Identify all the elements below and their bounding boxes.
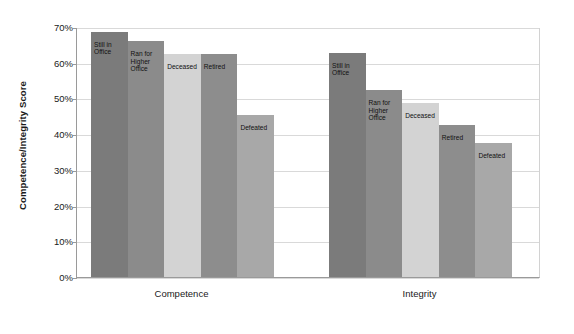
bar-category-label-line: Defeated xyxy=(478,152,505,160)
bar-category-label: Ran forHigherOffice xyxy=(369,99,391,122)
bar-category-label-line: Retired xyxy=(442,134,463,142)
y-axis-tick-label: 60% xyxy=(29,58,73,69)
bar-category-label: Deceased xyxy=(167,63,197,71)
y-axis-tick-label: 40% xyxy=(29,129,73,140)
y-axis-tick-label: 10% xyxy=(29,236,73,247)
bar-category-label-line: Ran for xyxy=(131,50,153,58)
y-axis-title: Competence/Integrity Score xyxy=(17,46,28,246)
y-axis-tick-label: 70% xyxy=(29,22,73,33)
bar-category-label-line: Office xyxy=(131,65,153,73)
bar-category-label-line: Defeated xyxy=(240,124,267,132)
bar-category-label-line: Office xyxy=(94,48,112,56)
bar-competence-still-in-office[interactable] xyxy=(91,32,128,277)
y-axis-tick-mark xyxy=(73,242,77,243)
bar-category-label-line: Ran for xyxy=(369,99,391,107)
bar-integrity-retired[interactable] xyxy=(439,125,476,277)
y-axis-tick-mark xyxy=(73,207,77,208)
bar-category-label-line: Office xyxy=(332,69,350,77)
bar-category-label-line: Still in xyxy=(94,41,112,49)
bar-category-label-line: Office xyxy=(369,114,391,122)
y-axis-tick-label: 50% xyxy=(29,93,73,104)
bar-category-label-line: Deceased xyxy=(167,63,197,71)
bar-category-label: Retired xyxy=(204,63,225,71)
bar-category-label: Defeated xyxy=(240,124,267,132)
bar-competence-defeated[interactable] xyxy=(237,115,274,277)
y-axis-tick-mark xyxy=(73,135,77,136)
y-axis-tick-label: 0% xyxy=(29,272,73,283)
gridline xyxy=(77,278,539,279)
bar-category-label: Still inOffice xyxy=(332,62,350,77)
bar-category-label: Retired xyxy=(442,134,463,142)
y-axis-tick-label: 30% xyxy=(29,165,73,176)
bar-category-label-line: Deceased xyxy=(405,112,435,120)
bar-integrity-deceased[interactable] xyxy=(402,103,439,277)
y-axis-tick-mark xyxy=(73,99,77,100)
bar-competence-ran-for-higher-office[interactable] xyxy=(128,41,165,277)
bar-category-label: Defeated xyxy=(478,152,505,160)
bar-category-label-line: Still in xyxy=(332,62,350,70)
x-axis-group-label-competence: Competence xyxy=(122,288,242,299)
bar-category-label-line: Higher xyxy=(369,107,391,115)
gridline xyxy=(77,28,539,29)
plot-area: 0%10%20%30%40%50%60%70%Still inOfficeRan… xyxy=(76,28,540,278)
bar-integrity-defeated[interactable] xyxy=(475,143,512,277)
bar-competence-retired[interactable] xyxy=(201,54,238,277)
bar-category-label-line: Retired xyxy=(204,63,225,71)
y-axis-tick-mark xyxy=(73,278,77,279)
bar-chart: Competence/Integrity Score 0%10%20%30%40… xyxy=(0,0,574,334)
y-axis-tick-mark xyxy=(73,28,77,29)
bar-competence-deceased[interactable] xyxy=(164,54,201,277)
x-axis-group-label-integrity: Integrity xyxy=(360,288,480,299)
bar-category-label: Ran forHigherOffice xyxy=(131,50,153,73)
bar-integrity-still-in-office[interactable] xyxy=(329,53,366,277)
y-axis-tick-mark xyxy=(73,64,77,65)
y-axis-tick-label: 20% xyxy=(29,201,73,212)
bar-category-label: Still inOffice xyxy=(94,41,112,56)
bar-category-label-line: Higher xyxy=(131,58,153,66)
y-axis-tick-mark xyxy=(73,171,77,172)
bar-category-label: Deceased xyxy=(405,112,435,120)
